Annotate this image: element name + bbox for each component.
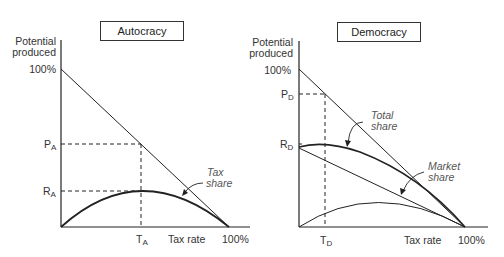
t-mark: TA [136,233,148,247]
democracy-labels: Potential produced 100% PD RD TD Tax rat… [249,36,485,248]
y-top-tick: 100% [264,64,291,76]
autocracy-panel [61,40,250,227]
potential-line [299,69,465,227]
arrow-head-icon [345,140,351,147]
r-mark: RA [43,185,57,199]
potential-line [61,69,229,227]
x-end-tick: 100% [458,234,485,246]
tax-share-curve [61,191,229,227]
x-end-tick: 100% [222,233,249,245]
x-axis-label: Tax rate [404,234,442,246]
diagram-canvas: Potential produced 100% PA RA TA Tax rat… [0,0,504,257]
y-label-line2: produced [12,46,56,58]
tax-share-curve [299,203,465,228]
total-share-label-2: share [371,120,397,132]
p-mark: PA [44,138,57,152]
y-top-tick: 100% [29,63,56,75]
y-label-line2: produced [249,47,293,59]
total-share-arrow [348,122,363,143]
market-share-label-2: share [428,171,454,183]
t-mark: TD [320,234,332,248]
tax-share-label-2: share [206,177,232,189]
x-axis-label: Tax rate [168,233,206,245]
democracy-panel [299,41,488,227]
r-mark: RD [280,138,294,152]
p-mark: PD [281,88,294,102]
arrow-head-icon [400,188,406,195]
